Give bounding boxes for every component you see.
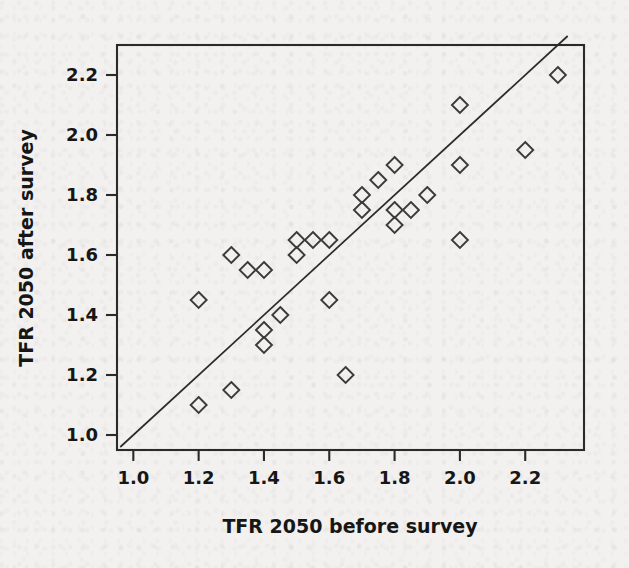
identity-line-path <box>120 36 567 447</box>
data-point-marker <box>321 232 337 248</box>
x-tick-label: 1.2 <box>183 467 215 488</box>
data-point-marker <box>256 322 272 338</box>
y-axis-tick-labels: 1.01.21.41.61.82.02.2 <box>66 64 98 445</box>
data-point-marker <box>550 67 566 83</box>
data-point-marker <box>387 157 403 173</box>
data-point-marker <box>240 262 256 278</box>
data-point-marker <box>452 97 468 113</box>
data-point-marker <box>256 337 272 353</box>
y-tick-label: 1.6 <box>66 244 98 265</box>
data-point-marker <box>223 382 239 398</box>
y-axis-ticks <box>106 75 117 435</box>
data-point-marker <box>321 292 337 308</box>
data-point-marker <box>289 232 305 248</box>
data-point-markers <box>191 67 566 413</box>
data-point-marker <box>370 172 386 188</box>
x-tick-label: 1.0 <box>117 467 149 488</box>
plot-frame-rect <box>117 45 584 450</box>
data-point-marker <box>289 247 305 263</box>
data-point-marker <box>191 397 207 413</box>
data-point-marker <box>305 232 321 248</box>
data-point-marker <box>354 187 370 203</box>
data-point-marker <box>223 247 239 263</box>
data-point-marker <box>191 292 207 308</box>
data-point-marker <box>403 202 419 218</box>
x-tick-label: 1.6 <box>313 467 345 488</box>
x-tick-label: 1.4 <box>248 467 280 488</box>
x-tick-label: 2.2 <box>509 467 541 488</box>
x-axis-tick-labels: 1.01.21.41.61.82.02.2 <box>117 467 541 488</box>
y-tick-label: 1.0 <box>66 424 98 445</box>
data-point-marker <box>354 202 370 218</box>
y-tick-label: 1.8 <box>66 184 98 205</box>
plot-canvas: 1.01.21.41.61.82.02.2 1.01.21.41.61.82.0… <box>0 0 629 568</box>
identity-reference-line <box>120 36 567 447</box>
x-axis-title: TFR 2050 before survey <box>222 515 478 537</box>
data-point-marker <box>419 187 435 203</box>
data-point-marker <box>452 232 468 248</box>
data-point-marker <box>387 217 403 233</box>
scatter-plot-figure: 1.01.21.41.61.82.02.2 1.01.21.41.61.82.0… <box>0 0 629 568</box>
data-point-marker <box>256 262 272 278</box>
y-axis-title: TFR 2050 after survey <box>15 129 37 367</box>
y-tick-label: 2.2 <box>66 64 98 85</box>
y-tick-label: 2.0 <box>66 124 98 145</box>
data-point-marker <box>272 307 288 323</box>
y-tick-label: 1.2 <box>66 364 98 385</box>
x-tick-label: 1.8 <box>379 467 411 488</box>
x-tick-label: 2.0 <box>444 467 476 488</box>
data-point-marker <box>517 142 533 158</box>
data-point-marker <box>387 202 403 218</box>
data-point-marker <box>338 367 354 383</box>
x-axis-ticks <box>133 450 525 461</box>
data-point-marker <box>452 157 468 173</box>
y-tick-label: 1.4 <box>66 304 98 325</box>
plot-frame <box>117 45 584 450</box>
